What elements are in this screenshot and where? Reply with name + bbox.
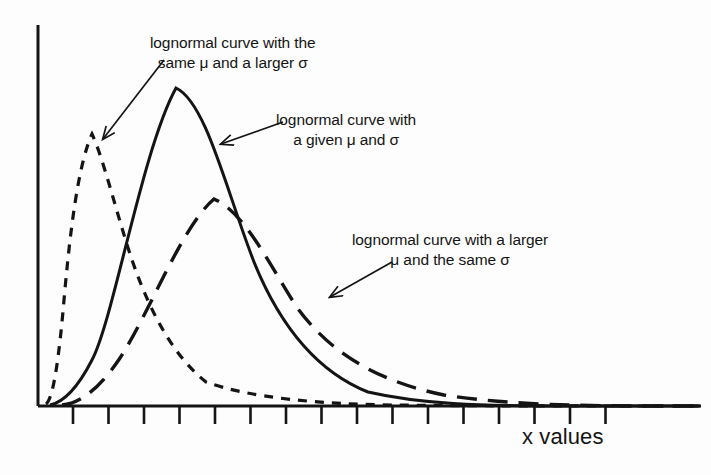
annotation-larger-sigma: lognormal curve with the same μ and a la… [150, 33, 316, 74]
annotation-larger-sigma-line1: lognormal curve with the [150, 33, 316, 53]
lognormal-curves-figure: lognormal curve with the same μ and a la… [0, 0, 711, 475]
annotation-given-mu-sigma-line2: a given μ and σ [276, 130, 416, 150]
x-axis-ticks [73, 406, 606, 424]
annotation-leader-lines-group [103, 60, 392, 297]
annotation-given-mu-sigma-line1: lognormal curve with [276, 110, 416, 130]
axes-group [38, 25, 701, 424]
x-axis-label: x values [522, 424, 604, 450]
annotation-larger-mu-line1: lognormal curve with a larger [352, 230, 548, 250]
annotation-given-mu-sigma: lognormal curve with a given μ and σ [276, 110, 416, 151]
annotation-larger-sigma-line2: same μ and a larger σ [150, 53, 316, 73]
annotation-larger-mu-line2: μ and the same σ [352, 250, 548, 270]
annotation-larger-mu: lognormal curve with a larger μ and the … [352, 230, 548, 271]
leader-line-given-mu-sigma [221, 122, 283, 144]
